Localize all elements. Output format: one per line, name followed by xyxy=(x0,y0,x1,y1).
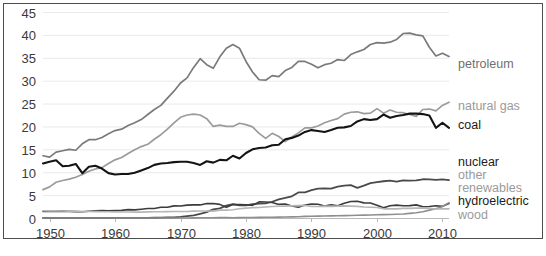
series-label-hydroelectric: hydroelectric xyxy=(458,194,529,208)
series-label-other: other xyxy=(458,168,487,182)
x-tick-label-1990: 1990 xyxy=(297,226,326,241)
series-label-coal: coal xyxy=(458,118,481,132)
y-tick-label-25: 25 xyxy=(22,97,36,112)
series-line-natural-gas xyxy=(43,102,449,189)
y-tick-label-20: 20 xyxy=(22,120,36,135)
series-label-wood: wood xyxy=(457,208,488,222)
y-tick-label-10: 10 xyxy=(22,166,36,181)
y-tick-label-35: 35 xyxy=(22,51,36,66)
x-tick-label-1960: 1960 xyxy=(101,226,130,241)
series-line-petroleum xyxy=(43,33,449,157)
x-tick-label-1980: 1980 xyxy=(232,226,261,241)
x-tick-label-2010: 2010 xyxy=(428,226,457,241)
y-tick-label-40: 40 xyxy=(22,28,36,43)
series-line-coal xyxy=(43,114,449,175)
series-label-natural-gas: natural gas xyxy=(458,99,520,113)
x-tick-label-2000: 2000 xyxy=(363,226,392,241)
series-label-petroleum: petroleum xyxy=(458,57,514,71)
y-tick-label-5: 5 xyxy=(29,189,36,204)
energy-consumption-line-chart: 0510152025303540451950196019701980199020… xyxy=(0,0,546,256)
x-tick-label-1970: 1970 xyxy=(167,226,196,241)
series-line-hydroelectric xyxy=(43,201,449,211)
x-tick-label-1950: 1950 xyxy=(36,226,65,241)
y-tick-label-45: 45 xyxy=(22,6,36,21)
y-tick-label-30: 30 xyxy=(22,74,36,89)
chart-container: 0510152025303540451950196019701980199020… xyxy=(0,0,546,256)
y-tick-label-0: 0 xyxy=(29,212,36,227)
y-tick-label-15: 15 xyxy=(22,143,36,158)
series-label-nuclear: nuclear xyxy=(458,155,499,169)
series-label-renewables: renewables xyxy=(458,181,522,195)
